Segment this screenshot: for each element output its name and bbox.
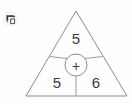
center-operator-label: + xyxy=(72,58,80,74)
diagram-canvas: + 5 5 6 xyxy=(0,0,132,104)
triangle-puzzle-figure: + 5 5 6 xyxy=(0,0,132,104)
divider-line-upper-right xyxy=(85,57,103,59)
region-value-bottom-left: 5 xyxy=(53,74,61,91)
divider-line-upper-left xyxy=(50,57,68,59)
region-value-bottom-right: 6 xyxy=(92,74,100,91)
region-value-top: 5 xyxy=(72,30,80,47)
